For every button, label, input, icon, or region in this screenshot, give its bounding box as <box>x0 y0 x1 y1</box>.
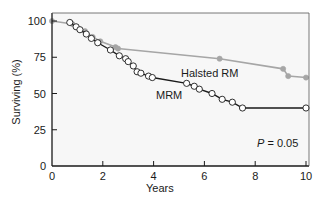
x-tick-label: 2 <box>100 170 106 182</box>
data-point-mrm <box>138 70 144 76</box>
data-point-mrm <box>209 90 215 96</box>
y-axis-label: Surviving (%) <box>10 59 22 124</box>
p-value: = 0.05 <box>264 137 298 149</box>
series-label-halsted: Halsted RM <box>181 67 238 79</box>
y-tick-label: 0 <box>40 160 46 172</box>
y-tick-label: 100 <box>28 15 46 27</box>
data-point-mrm <box>83 31 89 37</box>
x-tick-label: 8 <box>252 170 258 182</box>
data-point-halsted-rm <box>303 75 308 80</box>
p-value-annotation: P = 0.05 <box>257 137 298 149</box>
x-axis-label: Years <box>146 182 174 194</box>
data-point-mrm <box>184 80 190 86</box>
y-tick-label: 75 <box>34 51 46 63</box>
data-point-mrm <box>239 105 245 111</box>
data-point-mrm <box>219 96 225 102</box>
data-point-halsted-rm <box>217 56 222 61</box>
data-point-mrm <box>67 19 73 25</box>
data-point-mrm <box>196 86 202 92</box>
x-tick-label: 4 <box>151 170 157 182</box>
data-point-halsted-rm <box>115 46 120 51</box>
survival-chart: 02468100255075100 Years Surviving (%) Ha… <box>0 0 329 207</box>
x-tick-label: 0 <box>49 170 55 182</box>
y-tick-label: 25 <box>34 124 46 136</box>
data-point-mrm <box>107 47 113 53</box>
data-point-mrm <box>77 27 83 33</box>
data-point-mrm <box>229 99 235 105</box>
data-point-mrm <box>130 63 136 69</box>
data-point-halsted-rm <box>286 74 291 79</box>
data-point-mrm <box>149 74 155 80</box>
x-tick-label: 10 <box>300 170 312 182</box>
x-tick-label: 6 <box>201 170 207 182</box>
data-point-mrm <box>303 105 309 111</box>
data-point-mrm <box>95 40 101 46</box>
chart-svg: 02468100255075100 Years Surviving (%) Ha… <box>0 0 329 207</box>
data-point-mrm <box>125 59 131 65</box>
data-point-mrm <box>116 53 122 59</box>
data-point-mrm <box>88 35 94 41</box>
series-label-mrm: MRM <box>156 89 182 101</box>
y-tick-label: 50 <box>34 88 46 100</box>
data-point-halsted-rm <box>281 66 286 71</box>
